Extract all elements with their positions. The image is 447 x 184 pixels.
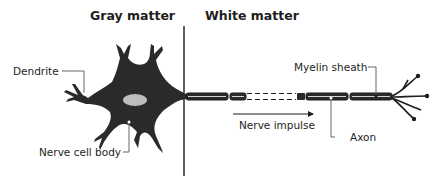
nerve-impulse-label: Nerve impulse (239, 119, 315, 131)
nucleus (123, 94, 147, 106)
nerve-cell-body-label: Nerve cell body (39, 146, 121, 158)
gray-matter-heading: Gray matter (90, 9, 175, 23)
nerve-impulse-arrow (233, 111, 314, 117)
axon-terminals (392, 76, 427, 119)
white-matter-heading: White matter (205, 9, 299, 23)
neuron-diagram: Gray matter White matter Dendrite Nerve … (0, 0, 447, 184)
myelin-sheath-label: Myelin sheath (294, 61, 367, 73)
axon-shape (186, 93, 392, 100)
axon-label: Axon (350, 131, 376, 143)
dendrite-label: Dendrite (13, 65, 59, 77)
